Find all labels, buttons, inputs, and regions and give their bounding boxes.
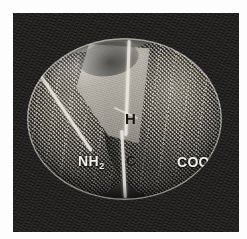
molecule-model: H C NH2 COOH bbox=[27, 38, 222, 200]
label-carbon: C bbox=[126, 154, 136, 168]
label-amino-group-subscript: 2 bbox=[99, 161, 105, 171]
label-hydrogen: H bbox=[125, 111, 136, 126]
label-amino-group-text: NH bbox=[78, 153, 99, 169]
label-carboxyl-group: COOH bbox=[177, 155, 220, 169]
label-amino-group: NH2 bbox=[78, 154, 105, 168]
photographic-plate: H C NH2 COOH bbox=[13, 13, 239, 232]
figure-root: H C NH2 COOH bbox=[0, 0, 247, 239]
